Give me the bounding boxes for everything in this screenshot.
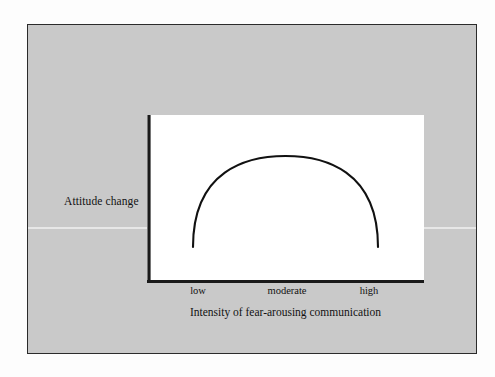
x-axis-caption: Intensity of fear-arousing communication bbox=[147, 306, 424, 318]
x-tick-label-row: low moderate high bbox=[147, 285, 424, 301]
figure-page: Attitude change low moderate high Intens… bbox=[0, 0, 495, 377]
figure-panel: Attitude change low moderate high Intens… bbox=[27, 24, 477, 354]
x-tick-label-low: low bbox=[190, 285, 206, 296]
y-axis-title: Attitude change bbox=[64, 195, 154, 207]
plot-svg bbox=[147, 115, 424, 283]
plot-area bbox=[147, 115, 424, 283]
x-tick-label-moderate: moderate bbox=[267, 285, 306, 296]
inverted-u-curve bbox=[193, 156, 378, 247]
x-tick-label-high: high bbox=[360, 285, 379, 296]
